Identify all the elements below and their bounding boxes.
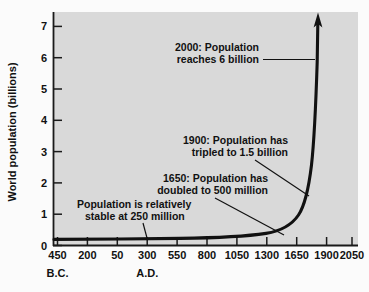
x-tick-label: 550 (168, 249, 186, 261)
x-tick-label: 1900 (314, 249, 338, 261)
y-tick-label: 6 (41, 52, 47, 64)
y-axis-title: World population (billions) (6, 62, 18, 201)
x-tick-label: 50 (111, 249, 123, 261)
y-tick-label: 5 (41, 83, 47, 95)
era-label-ad: A.D. (136, 267, 158, 279)
y-axis-tick-labels: 0 1 2 3 4 5 6 7 (41, 20, 48, 251)
annot-2000-line1: 2000: Population (175, 41, 259, 53)
x-tick-label: 1300 (255, 249, 279, 261)
y-tick-label: 2 (41, 177, 47, 189)
y-tick-label: 4 (41, 114, 48, 126)
annot-1900-line2: tripled to 1.5 billion (192, 146, 288, 158)
annot-1900-line1: 1900: Population has (183, 134, 288, 146)
x-tick-label: 2050 (340, 249, 364, 261)
annot-1650-line2: doubled to 500 million (157, 184, 268, 196)
annot-stable-line1: Population is relatively (77, 198, 192, 210)
x-tick-label: 300 (138, 249, 156, 261)
x-tick-label: 1050 (225, 249, 249, 261)
annot-2000-line2: reaches 6 billion (177, 53, 259, 65)
x-tick-label: 800 (198, 249, 216, 261)
annot-1650-line1: 1650: Population has (163, 172, 268, 184)
y-tick-label: 0 (41, 240, 47, 252)
x-tick-label: 1650 (284, 249, 308, 261)
x-tick-label: 200 (78, 249, 96, 261)
x-axis-tick-labels: 450 200 50 300 550 800 1050 1300 1650 19… (48, 249, 364, 261)
y-tick-label: 3 (41, 146, 47, 158)
era-label-bc: B.C. (47, 267, 69, 279)
y-tick-label: 1 (41, 208, 47, 220)
y-tick-label: 7 (41, 20, 47, 32)
annot-stable-line2: stable at 250 million (85, 210, 185, 222)
population-chart-figure: 0 1 2 3 4 5 6 7 World population (billio… (0, 0, 369, 292)
x-tick-label: 450 (48, 249, 66, 261)
chart-canvas: 0 1 2 3 4 5 6 7 World population (billio… (0, 0, 369, 292)
